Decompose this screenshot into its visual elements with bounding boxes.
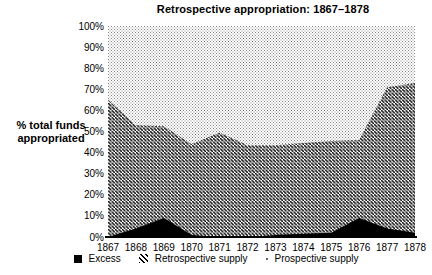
y-tick-label: 70% [62,84,104,95]
legend-item: Excess [74,253,121,264]
y-tick-label: 20% [62,189,104,200]
legend: ExcessRetrospective supplyProspective su… [0,253,432,264]
y-tick-label: 10% [62,210,104,221]
y-tick-label: 90% [62,42,104,53]
y-tick-label: 50% [62,126,104,137]
dot-swatch-icon [266,258,268,260]
stacked-area-chart [108,26,415,237]
legend-item: Retrospective supply [139,253,248,264]
figure: Retrospective appropriation: 1867–1878 %… [0,0,432,275]
y-tick-label: 40% [62,147,104,158]
legend-item: Prospective supply [266,253,359,264]
chart-title: Retrospective appropriation: 1867–1878 [94,3,432,15]
hatch-swatch-icon [139,254,148,263]
legend-label: Prospective supply [275,253,359,264]
legend-label: Excess [89,253,121,264]
y-tick-label: 30% [62,168,104,179]
plot-area [108,26,415,237]
excess-swatch-icon [74,255,82,263]
legend-label: Retrospective supply [155,253,248,264]
x-tick-label: 1878 [398,242,432,253]
y-tick-label: 60% [62,105,104,116]
y-tick-label: 0% [62,232,104,243]
y-tick-label: 100% [62,21,104,32]
y-tick-label: 80% [62,63,104,74]
x-axis-line [105,236,417,238]
